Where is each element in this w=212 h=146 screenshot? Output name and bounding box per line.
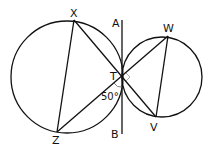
label-z: Z — [52, 134, 60, 146]
geometry-diagram: X A W T 50° V B Z — [0, 0, 212, 146]
label-w: W — [163, 22, 174, 35]
left-circle — [11, 21, 123, 133]
label-angle-50: 50° — [101, 91, 119, 102]
label-t: T — [109, 70, 117, 83]
label-b: B — [111, 128, 119, 141]
label-x: X — [70, 7, 78, 20]
label-v: V — [150, 121, 158, 134]
segment-xv — [74, 20, 156, 117]
segment-wv — [156, 36, 168, 117]
label-a: A — [112, 17, 120, 30]
right-angle-mark — [126, 73, 130, 81]
segment-xz — [57, 20, 74, 132]
segment-zw — [57, 36, 168, 132]
angle-arc-50 — [114, 83, 122, 87]
